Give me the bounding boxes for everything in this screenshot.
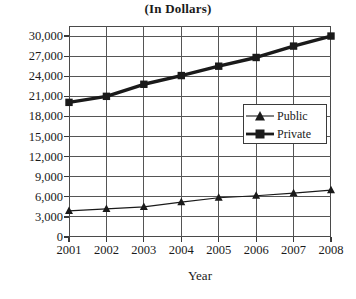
y-tick-label-9000: 9,000 <box>0 171 63 183</box>
data-point-private-2003 <box>140 81 147 88</box>
legend-marker-square-icon <box>244 126 276 142</box>
y-tick-label-12000: 12,000 <box>0 151 63 163</box>
y-tick-label-27000: 27,000 <box>0 50 63 62</box>
x-axis-tick-labels: 20012002200320042005200620072008 <box>0 243 356 261</box>
legend-label-public: Public <box>277 109 308 123</box>
x-tick-label-2005: 2005 <box>199 243 239 257</box>
legend-marker-triangle-icon <box>244 108 276 124</box>
y-tick-label-0: 0 <box>0 231 63 243</box>
y-tick-label-15000: 15,000 <box>0 131 63 143</box>
x-tick-label-2004: 2004 <box>161 243 201 257</box>
data-point-private-2002 <box>103 93 110 100</box>
x-axis-title: Year <box>69 268 331 284</box>
chart-legend: Public Private <box>243 104 327 144</box>
data-point-private-2007 <box>290 42 297 49</box>
y-tick-label-21000: 21,000 <box>0 90 63 102</box>
x-tick-label-2008: 2008 <box>311 243 351 257</box>
data-point-public-2002 <box>102 204 110 211</box>
y-tick-label-3000: 3,000 <box>0 211 63 223</box>
legend-item-public: Public <box>244 107 328 125</box>
legend-label-private: Private <box>277 127 311 141</box>
x-tick-label-2001: 2001 <box>49 243 89 257</box>
y-tick-label-18000: 18,000 <box>0 110 63 122</box>
data-point-public-2001 <box>65 206 73 213</box>
x-tick-label-2002: 2002 <box>86 243 126 257</box>
chart-figure: (In Dollars) 03,0006,0009,00012,00015,00… <box>0 0 356 299</box>
y-tick-label-24000: 24,000 <box>0 70 63 82</box>
data-point-private-2006 <box>252 54 259 61</box>
y-tick-label-30000: 30,000 <box>0 30 63 42</box>
legend-item-private: Private <box>244 125 328 143</box>
data-point-private-2005 <box>215 62 222 69</box>
x-tick-label-2007: 2007 <box>274 243 314 257</box>
y-tick-label-6000: 6,000 <box>0 191 63 203</box>
x-tick-label-2003: 2003 <box>124 243 164 257</box>
y-axis-tick-labels: 03,0006,0009,00012,00015,00018,00021,000… <box>0 26 63 237</box>
data-point-private-2008 <box>327 32 334 39</box>
x-tick-label-2006: 2006 <box>236 243 276 257</box>
data-point-private-2001 <box>65 99 72 106</box>
data-point-public-2008 <box>327 186 335 193</box>
data-point-private-2004 <box>178 72 185 79</box>
